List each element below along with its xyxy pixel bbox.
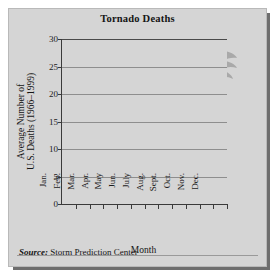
source-prefix: Source: — [19, 247, 48, 257]
xtick-label-7: Aug. — [135, 173, 145, 207]
figure-plate: Tornado Deaths — [9, 9, 266, 266]
bar-nov — [202, 182, 211, 204]
plot-area: 30 25 20 15 10 5 0 Jan.Feb.Mar.Apr.MayJu… — [61, 39, 227, 205]
xtick-label-3: Apr. — [80, 173, 90, 207]
xtick-mark-7 — [172, 204, 173, 209]
xtick-mark-11 — [227, 204, 228, 209]
y-axis-title-line2: U.S. Deaths (1966–1999) — [26, 73, 37, 170]
xtick-mark-6 — [158, 204, 159, 209]
bar-series: Jan.Feb.Mar.Apr.MayJun.JulyAug.Sept.Oct.… — [62, 39, 227, 204]
xtick-label-11: Dec. — [190, 173, 200, 207]
xtick-mark-10 — [213, 204, 214, 209]
source-note: Source: Storm Prediction Center — [19, 247, 138, 257]
y-axis-title: Average Number of U.S. Deaths (1966–1999… — [15, 39, 37, 204]
xtick-label-1: Feb. — [52, 173, 62, 207]
ytick-label-15: 15 — [49, 116, 58, 126]
ytick-label-25: 25 — [49, 61, 58, 71]
figure-page: Tornado Deaths — [0, 0, 272, 272]
xtick-mark-2 — [103, 204, 104, 209]
source-text: Storm Prediction Center — [50, 247, 138, 257]
xtick-label-10: Nov. — [176, 173, 186, 207]
ytick-label-10: 10 — [49, 144, 58, 154]
xtick-label-8: Sept. — [148, 173, 158, 207]
ytick-label-30: 30 — [49, 34, 58, 44]
xtick-label-6: July — [121, 173, 131, 207]
figure-frame: Tornado Deaths — [8, 8, 267, 267]
bar-dec — [216, 193, 225, 204]
xtick-label-5: Jun. — [107, 173, 117, 207]
xtick-label-0: Jan. — [38, 173, 48, 207]
y-axis-title-line1: Average Number of — [16, 73, 27, 170]
ytick-label-20: 20 — [49, 89, 58, 99]
xtick-mark-3 — [117, 204, 118, 209]
xtick-label-4: May — [93, 173, 103, 207]
xtick-label-9: Oct. — [162, 173, 172, 207]
chart-title: Tornado Deaths — [9, 13, 266, 24]
xtick-label-2: Mar. — [66, 173, 76, 207]
